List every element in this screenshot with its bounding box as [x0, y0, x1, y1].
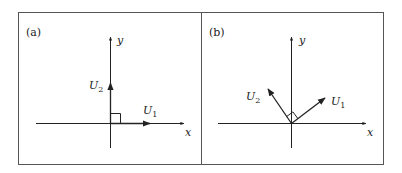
figure: (a) x y U1 U2 (b) x y U1 — [0, 0, 402, 173]
panel-b: (b) x y U1 U2 — [209, 26, 374, 148]
y-axis-label-a: y — [116, 34, 124, 47]
panel-label-a: (a) — [26, 26, 41, 39]
panel-label-b: (b) — [209, 26, 225, 39]
vector-label-u1-b: U1 — [331, 95, 345, 110]
x-axis-label-a: x — [185, 126, 192, 139]
vector-label-u2-a: U2 — [89, 79, 103, 94]
x-axis-label-b: x — [367, 126, 374, 139]
right-angle-marker-a — [111, 114, 121, 124]
vector-u1-b — [292, 98, 326, 124]
vector-label-u1-a: U1 — [143, 104, 157, 119]
frame — [19, 13, 384, 165]
y-axis-label-b: y — [298, 34, 306, 47]
panel-a: (a) x y U1 U2 — [26, 26, 192, 148]
vector-u2-b — [268, 89, 292, 124]
vector-label-u2-b: U2 — [246, 90, 260, 105]
